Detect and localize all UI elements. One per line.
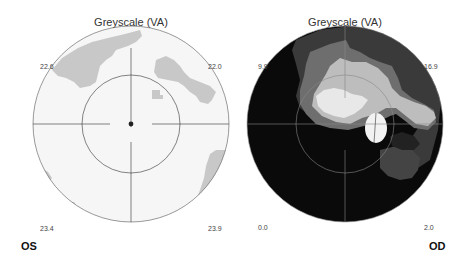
os-top-left-value: 22.6 xyxy=(40,63,54,70)
od-bottom-right-value: 2.0 xyxy=(424,224,434,231)
os-top-right-value: 22.0 xyxy=(208,63,222,70)
os-eye-label: OS xyxy=(21,240,37,252)
od-top-right-value: 16.9 xyxy=(424,63,438,70)
os-fixation-dot xyxy=(129,122,134,127)
od-field xyxy=(245,20,450,230)
os-bottom-right-value: 23.9 xyxy=(208,225,222,232)
od-top-left-value: 9.9 xyxy=(258,63,268,70)
os-bottom-left-value: 23.4 xyxy=(40,225,54,232)
od-eye-label: OD xyxy=(429,240,446,252)
os-greyscale-plot xyxy=(0,0,466,269)
od-bottom-left-value: 0.0 xyxy=(258,224,268,231)
